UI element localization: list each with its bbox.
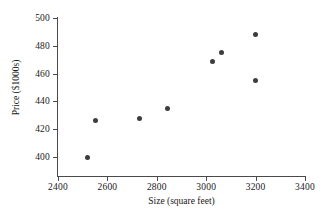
y-tick-label: 440 — [22, 96, 50, 106]
y-tick-label: 480 — [22, 41, 50, 51]
x-tick-label: 2600 — [87, 182, 127, 192]
x-tick-label: 3400 — [285, 182, 325, 192]
y-tick-mark — [53, 46, 57, 47]
data-point — [253, 32, 258, 37]
scatter-plot-figure: 400420440460480500 240026002800300032003… — [0, 0, 331, 217]
x-axis-title: Size (square feet) — [58, 196, 305, 207]
x-tick-label: 2400 — [38, 182, 78, 192]
x-tick-label: 3200 — [236, 182, 276, 192]
y-tick-mark — [53, 157, 57, 158]
y-axis-title: Price ($1000s) — [11, 28, 22, 148]
x-tick-mark — [107, 177, 108, 181]
x-tick-mark — [58, 177, 59, 181]
x-tick-mark — [256, 177, 257, 181]
x-tick-label: 2800 — [137, 182, 177, 192]
y-tick-label: 500 — [22, 13, 50, 23]
y-tick-mark — [53, 74, 57, 75]
data-point — [165, 106, 170, 111]
x-axis-line — [57, 176, 306, 177]
plot-area — [58, 18, 305, 157]
data-point — [137, 116, 142, 121]
data-point — [219, 50, 224, 55]
x-tick-mark — [305, 177, 306, 181]
data-point — [85, 155, 90, 160]
data-point — [210, 59, 215, 64]
x-tick-mark — [157, 177, 158, 181]
y-tick-label: 460 — [22, 69, 50, 79]
y-tick-label: 400 — [22, 152, 50, 162]
x-tick-mark — [206, 177, 207, 181]
y-tick-mark — [53, 18, 57, 19]
y-tick-mark — [53, 129, 57, 130]
x-tick-label: 3000 — [186, 182, 226, 192]
data-point — [93, 118, 98, 123]
y-tick-label: 420 — [22, 124, 50, 134]
y-tick-mark — [53, 101, 57, 102]
data-point — [253, 78, 258, 83]
